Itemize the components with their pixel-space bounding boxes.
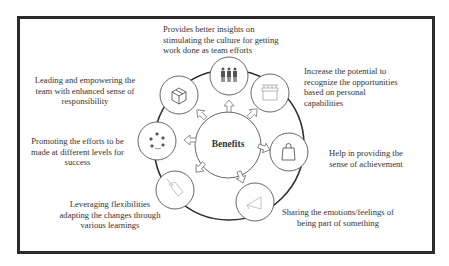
benefit-node-left	[138, 122, 176, 160]
benefit-label-top-left: Leading and empowering the team with enh…	[24, 75, 146, 107]
benefit-label-top: Provides better insights on stimulating …	[163, 24, 303, 56]
benefit-node-top-left	[160, 76, 198, 114]
benefit-label-left: Promoting the efforts to be made at diff…	[20, 136, 135, 168]
benefit-label-bottom-left: Leveraging flexibilities adapting the ch…	[50, 199, 170, 231]
benefit-label-bottom-right: Sharing the emotions/feelings of being p…	[268, 207, 408, 228]
benefit-node-top-right	[251, 74, 289, 112]
center-label: Benefits	[203, 139, 253, 149]
benefit-label-right: Help in providing the sense of achieveme…	[316, 148, 416, 169]
benefit-node-right	[270, 133, 308, 171]
benefit-label-top-right: Increase the potential to recognize the …	[304, 66, 424, 108]
